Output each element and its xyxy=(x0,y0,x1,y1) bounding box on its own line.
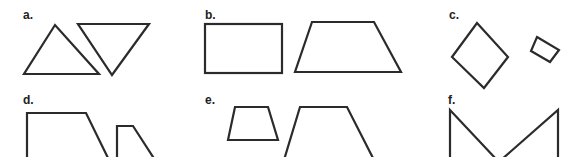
panel-c-label: c. xyxy=(449,8,459,22)
small-rotated-square xyxy=(531,37,559,62)
panel-c: c. xyxy=(449,8,559,88)
panel-b: b. xyxy=(205,8,401,73)
right-triangle-right xyxy=(501,110,558,157)
right-triangle-left xyxy=(450,110,497,157)
panel-b-label: b. xyxy=(205,8,216,22)
panel-f: f. xyxy=(448,93,558,157)
panel-d-label: d. xyxy=(23,93,34,107)
large-right-trapezoid xyxy=(27,113,109,157)
inverted-triangle xyxy=(78,24,149,75)
panel-e-label: e. xyxy=(205,93,215,107)
small-isosceles-trapezoid xyxy=(228,107,278,140)
shapes-figure: a. b. c. d. e. f. xyxy=(0,0,583,157)
rectangle xyxy=(205,24,282,73)
upright-triangle xyxy=(24,25,99,74)
panel-a: a. xyxy=(23,8,149,75)
panel-a-label: a. xyxy=(23,8,33,22)
trapezoid xyxy=(295,22,401,72)
large-rotated-square xyxy=(452,23,508,88)
panel-f-label: f. xyxy=(448,93,455,107)
panel-d: d. xyxy=(23,93,155,157)
large-isosceles-trapezoid xyxy=(284,107,374,157)
small-right-trapezoid xyxy=(117,126,155,157)
panel-e: e. xyxy=(205,93,374,157)
